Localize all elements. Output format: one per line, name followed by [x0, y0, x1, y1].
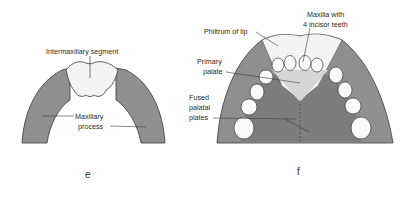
label-fused-line1: Fused	[189, 93, 209, 102]
label-philtrum: Philtrum of lip	[204, 27, 248, 36]
tooth-icon	[272, 58, 284, 72]
label-maxilla-line1: Maxilla with	[307, 10, 344, 19]
label-primary-line2: palate	[203, 67, 223, 76]
tooth-icon	[284, 56, 296, 71]
panel-e: Intermaxillary segment Maxillary process…	[22, 47, 165, 180]
panel-letter-e: e	[85, 169, 91, 180]
maxillary-process-arch	[22, 68, 70, 143]
tooth-icon	[351, 117, 371, 139]
intermaxillary-segment-shape	[66, 62, 118, 97]
label-intermaxillary-segment: Intermaxillary segment	[46, 47, 118, 56]
panel-f: Philtrum of lip Maxilla with 4 incisor t…	[189, 10, 393, 177]
tooth-icon	[241, 99, 257, 115]
tooth-icon	[250, 84, 264, 100]
maxillary-process-arch-right	[116, 68, 165, 143]
tooth-icon	[329, 67, 343, 83]
panel-letter-f: f	[297, 166, 300, 177]
tooth-icon	[311, 58, 323, 72]
tooth-icon	[345, 98, 361, 114]
tooth-icon	[234, 117, 254, 139]
label-maxillary-line2: process	[78, 122, 104, 131]
label-fused-line2: palatal	[189, 103, 211, 112]
label-maxilla-line2: 4 incisor teeth	[303, 20, 348, 29]
embryology-palate-diagram: Intermaxillary segment Maxillary process…	[0, 0, 415, 200]
label-fused-line3: plates	[189, 113, 209, 122]
label-primary-line1: Primary	[197, 57, 222, 66]
tooth-icon	[299, 56, 311, 71]
label-maxillary-line1: Maxillary	[75, 112, 104, 121]
tooth-icon	[338, 82, 352, 98]
